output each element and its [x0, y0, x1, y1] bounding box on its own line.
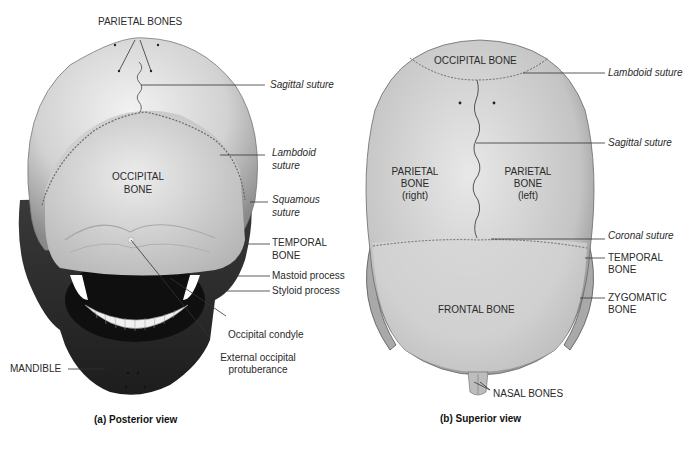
label-parietal-right-line3: (right): [385, 190, 445, 202]
label-frontal-bone: FRONTAL BONE: [438, 304, 515, 316]
label-occipital-bone: OCCIPITAL BONE: [434, 55, 517, 67]
label-coronal-suture: Coronal suture: [608, 230, 674, 242]
label-external-occipital-protuberance-line1: External occipital: [210, 352, 306, 364]
label-occipital-bone-line2: BONE: [108, 184, 168, 196]
label-temporal-bone-superior-line1: TEMPORAL: [608, 252, 663, 264]
label-lambdoid-suture-line1: Lambdoid: [272, 147, 316, 159]
label-occipital-bone-line1: OCCIPITAL: [108, 171, 168, 183]
label-external-occipital-protuberance-line2: protuberance: [210, 364, 306, 376]
caption-superior-view: (b) Superior view: [440, 413, 521, 424]
label-parietal-left-line3: (left): [498, 190, 558, 202]
label-sagittal-suture-superior: Sagittal suture: [608, 137, 672, 149]
label-parietal-bones: PARIETAL BONES: [98, 16, 182, 28]
label-styloid-process: Styloid process: [272, 285, 340, 297]
superior-skull: [366, 40, 594, 395]
label-sagittal-suture: Sagittal suture: [270, 79, 334, 91]
skull-illustrations: [0, 0, 693, 450]
label-zygomatic-bone-line1: ZYGOMATIC: [608, 292, 667, 304]
label-parietal-left-line1: PARIETAL: [498, 166, 558, 178]
label-temporal-bone-line1: TEMPORAL: [272, 237, 327, 249]
label-zygomatic-bone-line2: BONE: [608, 304, 636, 316]
label-temporal-bone-superior-line2: BONE: [608, 264, 636, 276]
label-mastoid-process: Mastoid process: [272, 270, 345, 282]
label-mandible: MANDIBLE: [10, 363, 61, 375]
label-nasal-bones: NASAL BONES: [493, 388, 563, 400]
caption-posterior-view: (a) Posterior view: [94, 414, 177, 425]
skull-diagram: PARIETAL BONES Sagittal suture Lambdoid …: [0, 0, 693, 450]
label-lambdoid-suture-line2: suture: [272, 160, 300, 172]
label-lambdoid-suture: Lambdoid suture: [608, 67, 683, 79]
label-parietal-left-line2: BONE: [498, 178, 558, 190]
label-occipital-condyle: Occipital condyle: [228, 329, 304, 341]
label-squamous-suture-line1: Squamous: [272, 194, 320, 206]
label-parietal-right-line2: BONE: [385, 178, 445, 190]
label-parietal-right-line1: PARIETAL: [385, 166, 445, 178]
label-squamous-suture-line2: suture: [272, 207, 300, 219]
label-temporal-bone-line2: BONE: [272, 250, 300, 262]
posterior-skull: [19, 38, 258, 395]
